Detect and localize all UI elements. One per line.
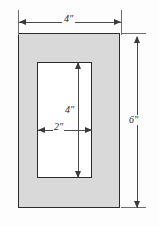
hole-height-dim-line [78, 63, 79, 177]
hole-height-label: 4" [64, 105, 75, 115]
top-dim-extension-right [121, 10, 122, 35]
hole-height-arrow-top-icon [75, 62, 81, 69]
top-dim-arrow-left-icon [19, 19, 26, 25]
hole-width-arrow-left-icon [38, 127, 45, 133]
figure-canvas: 4" 6" 4" 2" [0, 0, 159, 226]
hole-height-arrow-bottom-icon [75, 171, 81, 178]
top-dim-arrow-right-icon [114, 19, 121, 25]
right-dim-arrow-top-icon [134, 36, 140, 43]
inner-hole-shape [37, 62, 92, 178]
top-dim-label: 4" [62, 14, 75, 24]
right-dim-extension-top [121, 33, 146, 34]
hole-width-dim-line [38, 130, 92, 131]
hole-width-arrow-right-icon [85, 127, 92, 133]
hole-width-label: 2" [53, 122, 64, 132]
right-dim-label: 6" [127, 115, 140, 125]
right-dim-arrow-bottom-icon [134, 201, 140, 208]
